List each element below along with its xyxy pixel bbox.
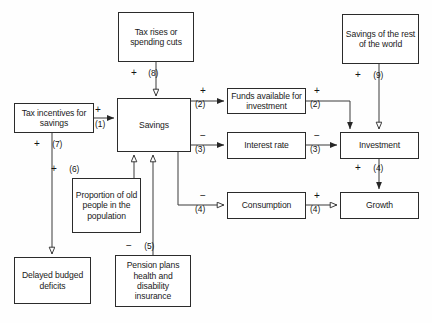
causal-loop-diagram: Tax rises or spending cuts Savings of th… — [0, 0, 432, 323]
node-label: Tax incentives for savings — [17, 108, 91, 129]
edge-number-4b: (4) — [310, 205, 320, 214]
edge-number-3b: (3) — [310, 145, 320, 154]
edge-sign: + — [355, 69, 361, 80]
edge-sign: + — [355, 162, 361, 173]
edge-label-8: + (8) — [131, 68, 158, 78]
edge-sign: + — [34, 138, 40, 149]
edge-label-6: + (6) — [51, 164, 79, 174]
edge-number: (4) — [310, 204, 320, 214]
edge-number-3a: (3) — [195, 145, 205, 154]
node-label: Proportion of old people in the populati… — [75, 190, 138, 221]
node-label: Pension plans health and disability insu… — [118, 260, 188, 302]
edge-number-1: (1) — [95, 120, 105, 129]
edge-number: (8) — [148, 68, 158, 78]
node-tax-rises-or-spending-cuts[interactable]: Tax rises or spending cuts — [118, 12, 194, 62]
edge-number: (9) — [373, 70, 383, 80]
edge-label-9: + (9) — [355, 70, 383, 80]
edge-label-3b: − — [314, 131, 320, 141]
node-funds-available-for-investment[interactable]: Funds available for investment — [227, 88, 306, 114]
node-consumption[interactable]: Consumption — [227, 192, 306, 219]
node-tax-incentives-for-savings[interactable]: Tax incentives for savings — [14, 103, 94, 133]
edge-sign: − — [314, 130, 320, 141]
node-savings-of-the-rest-of-the-world[interactable]: Savings of the rest of the world — [342, 14, 419, 64]
edge-label-2a: + — [200, 86, 206, 96]
edge-sign: + — [51, 163, 57, 174]
edge-number-4a: (4) — [195, 205, 205, 214]
edge-label-3a: − — [200, 131, 206, 141]
node-label: Investment — [359, 140, 400, 150]
node-label: Consumption — [242, 200, 292, 210]
edge-number: (4) — [373, 163, 383, 173]
edge-number: (1) — [95, 119, 105, 129]
node-label: Funds available for investment — [230, 91, 303, 112]
edge-number: (4) — [195, 204, 205, 214]
edge-sign: + — [200, 85, 206, 96]
edge-number: (6) — [69, 164, 79, 174]
edge-label-4b: + — [314, 191, 320, 201]
edge-sign: + — [95, 104, 101, 115]
edge-number: (3) — [195, 144, 205, 154]
edge-sign: − — [200, 190, 206, 201]
edge-sign: + — [314, 190, 320, 201]
edge-label-4a: − — [200, 191, 206, 201]
node-label: Savings of the rest of the world — [345, 29, 416, 50]
edge-sign: + — [314, 85, 320, 96]
node-pension-plans-health-and-disability-insurance[interactable]: Pension plans health and disability insu… — [115, 255, 191, 307]
node-label: Interest rate — [244, 140, 289, 150]
node-label: Savings — [139, 120, 169, 130]
node-label: Tax rises or spending cuts — [121, 27, 191, 48]
node-proportion-of-old-people-in-the-population[interactable]: Proportion of old people in the populati… — [72, 178, 141, 233]
edge-number: (2) — [195, 99, 205, 109]
node-label: Delayed budged deficits — [17, 270, 88, 291]
node-interest-rate[interactable]: Interest rate — [227, 132, 306, 159]
edge-sign: − — [200, 130, 206, 141]
edge-number: (3) — [310, 144, 320, 154]
edge-number-2a: (2) — [195, 100, 205, 109]
edge-number-2b: (2) — [310, 100, 320, 109]
node-investment[interactable]: Investment — [340, 132, 419, 159]
edge-number: (5) — [144, 241, 154, 251]
edge-label-5: − (5) — [126, 241, 154, 251]
node-delayed-budged-deficits[interactable]: Delayed budged deficits — [14, 257, 91, 304]
edge-label-2b: + — [314, 86, 320, 96]
node-savings[interactable]: Savings — [117, 98, 191, 152]
edge-label-4c: + (4) — [355, 163, 383, 173]
edge-label-1: + — [95, 105, 101, 115]
edge-number: (2) — [310, 99, 320, 109]
node-growth[interactable]: Growth — [340, 192, 419, 219]
edge-number: (7) — [52, 139, 62, 149]
edge-label-7: + (7) — [34, 139, 62, 149]
node-label: Growth — [366, 200, 393, 210]
edge-sign: − — [126, 240, 132, 251]
edge-sign: + — [131, 67, 137, 78]
